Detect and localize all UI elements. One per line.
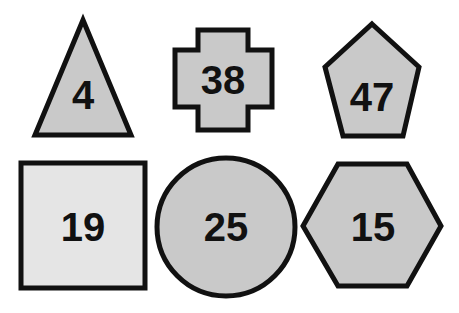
triangle-shape: 4 bbox=[35, 20, 131, 135]
pentagon-shape: 47 bbox=[325, 24, 419, 136]
cross-shape: 38 bbox=[175, 30, 272, 130]
circle-shape: 25 bbox=[157, 158, 295, 296]
pentagon-label: 47 bbox=[350, 75, 395, 119]
circle-label: 25 bbox=[204, 205, 249, 249]
cross-label: 38 bbox=[201, 58, 246, 102]
triangle-label: 4 bbox=[72, 73, 95, 117]
hexagon-shape: 15 bbox=[303, 164, 441, 286]
square-shape: 19 bbox=[21, 163, 145, 288]
shapes-canvas: 4 38 47 19 25 15 bbox=[0, 0, 459, 313]
shapes-svg: 4 38 47 19 25 15 bbox=[0, 0, 459, 313]
square-label: 19 bbox=[61, 205, 106, 249]
hexagon-label: 15 bbox=[351, 205, 396, 249]
